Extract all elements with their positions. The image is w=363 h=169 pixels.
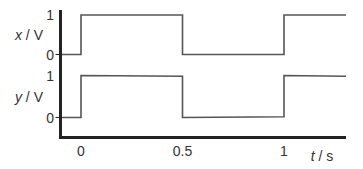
- y-tick-label-y-1: 1: [46, 68, 54, 84]
- signal-y: [62, 76, 346, 118]
- y-axis-label-x: x / V: [14, 27, 44, 43]
- x-tick-label-0: 0: [77, 143, 85, 159]
- signal-x: [62, 15, 346, 55]
- axes: [56, 10, 347, 139]
- y-tick-label-y-0: 0: [46, 110, 54, 126]
- y-tick-label-x-1: 1: [46, 7, 54, 23]
- signals: [62, 15, 346, 118]
- waveform-chart: 10x / V10y / V00.51t / s: [0, 0, 363, 169]
- y-axis-label-y: y / V: [14, 89, 44, 105]
- x-tick-label-0.5: 0.5: [173, 143, 193, 159]
- x-tick-label-1: 1: [280, 143, 288, 159]
- x-axis-label: t / s: [311, 148, 334, 164]
- y-tick-label-x-0: 0: [46, 47, 54, 63]
